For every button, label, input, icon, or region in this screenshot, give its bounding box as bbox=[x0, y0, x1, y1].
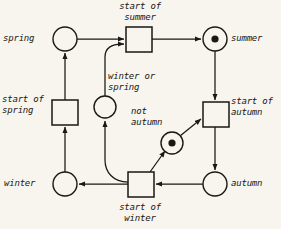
label-transition-start-of-summer: start of summer bbox=[104, 1, 176, 23]
transition-start-of-winter[interactable] bbox=[128, 172, 154, 197]
place-spring[interactable] bbox=[53, 27, 77, 51]
arc-not-autumn-to-start-of-autumn bbox=[180, 119, 201, 136]
arc-start-of-winter-to-winter-or-spring bbox=[105, 121, 128, 182]
petri-net-diagram: spring summer autumn winter winter or sp… bbox=[0, 0, 281, 229]
label-place-summer: summer bbox=[231, 33, 262, 44]
label-transition-start-of-spring: start of spring bbox=[2, 94, 44, 116]
label-place-not-autumn: not autumn bbox=[131, 106, 162, 128]
token-summer bbox=[211, 35, 218, 42]
transition-start-of-summer[interactable] bbox=[126, 27, 152, 52]
label-transition-start-of-winter: start of winter bbox=[104, 202, 176, 224]
label-place-winter-or-spring: winter or spring bbox=[108, 71, 155, 93]
place-winter[interactable] bbox=[53, 172, 77, 196]
place-winter-or-spring[interactable] bbox=[94, 96, 116, 118]
arc-start-of-winter-to-not-autumn bbox=[150, 151, 165, 172]
label-place-autumn: autumn bbox=[231, 178, 262, 189]
token-not-autumn bbox=[168, 139, 175, 146]
transition-start-of-autumn[interactable] bbox=[203, 102, 229, 127]
label-place-winter: winter bbox=[4, 178, 35, 189]
label-place-spring: spring bbox=[3, 33, 34, 44]
transition-start-of-spring[interactable] bbox=[52, 100, 78, 125]
place-autumn[interactable] bbox=[203, 172, 227, 196]
label-transition-start-of-autumn: start of autumn bbox=[231, 96, 273, 118]
